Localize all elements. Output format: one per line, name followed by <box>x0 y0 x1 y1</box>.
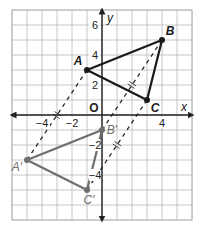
x-tick-label: −4 <box>36 117 49 129</box>
vertex-label-c: C <box>151 101 160 115</box>
coordinate-plane-figure: yxO−4−24642−2−4ABCA′B′C′ <box>0 0 200 232</box>
vertex-point <box>144 97 150 103</box>
vertex-label-image: A′ <box>11 160 23 174</box>
x-tick-label: −2 <box>66 117 79 129</box>
vertex-point <box>159 37 165 43</box>
vertex-point <box>84 67 90 73</box>
y-tick-label: −4 <box>89 169 102 181</box>
y-tick-label: 2 <box>92 79 98 91</box>
y-tick-label: −2 <box>89 139 102 151</box>
y-tick-label: 6 <box>92 19 98 31</box>
vertex-label-image: C′ <box>84 193 96 207</box>
coordinate-plane: yxO−4−24642−2−4ABCA′B′C′ <box>0 0 200 232</box>
vertex-point <box>24 157 30 163</box>
y-axis-label: y <box>106 11 114 25</box>
vertex-point <box>99 127 105 133</box>
x-tick-label: 4 <box>159 117 165 129</box>
y-tick-label: 4 <box>92 49 98 61</box>
vertex-label-image: B′ <box>107 123 118 137</box>
x-axis-label: x <box>180 100 188 114</box>
vertex-label-b: B <box>166 24 175 38</box>
origin-label: O <box>89 101 98 115</box>
vertex-label-a: A <box>73 54 83 68</box>
